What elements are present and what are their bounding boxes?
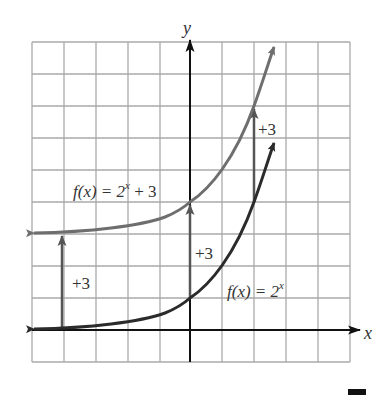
shift-label-center: +3 — [195, 244, 213, 263]
base-function-label: f(x) = 2x — [227, 279, 284, 301]
shift-label-right: +3 — [258, 120, 276, 139]
shift-label-left: +3 — [72, 274, 90, 293]
base-curve — [34, 143, 274, 329]
x-axis-label: x — [363, 323, 372, 343]
shifted-function-label: f(x) = 2x + 3 — [73, 179, 157, 201]
corner-mark — [348, 389, 366, 395]
y-axis-label: y — [181, 18, 191, 38]
shifted-curve — [34, 47, 274, 233]
exponential-graph: x y f(x) = 2x + 3 f(x) = 2x +3 +3 +3 — [0, 0, 380, 395]
